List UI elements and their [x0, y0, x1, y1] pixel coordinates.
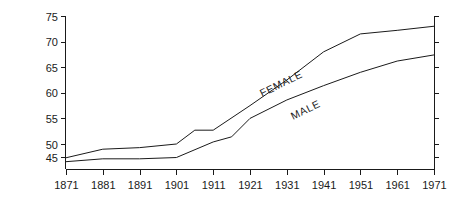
x-tick-label-1961: 1961 — [385, 179, 409, 191]
x-tick-label-1951: 1951 — [349, 179, 373, 191]
female-series-label: FEMALE — [258, 68, 305, 99]
y-axis-title: Expectation of life at birth (years) — [0, 0, 20, 22]
x-tick-label-1891: 1891 — [128, 179, 152, 191]
x-tick-label-1901: 1901 — [165, 179, 189, 191]
y-tick-label-70: 70 — [46, 36, 58, 48]
chart-canvas: 75706560555045 1871188118911901191119211… — [0, 0, 457, 207]
series-line-male — [66, 55, 434, 162]
y-tick-label-45: 45 — [46, 152, 58, 164]
x-tick-label-1871: 1871 — [54, 179, 78, 191]
male-series-label: MALE — [289, 97, 322, 122]
series-lines — [66, 26, 434, 161]
x-tick-label-1971: 1971 — [422, 179, 446, 191]
y-tick-label-60: 60 — [46, 87, 58, 99]
x-axis-ticks — [67, 170, 435, 176]
life-expectancy-chart: Expectation of life at birth (years) 757… — [0, 0, 457, 207]
x-tick-label-1911: 1911 — [202, 179, 226, 191]
x-tick-label-1931: 1931 — [275, 179, 299, 191]
y-axis-tick-labels: 75706560555045 — [46, 11, 58, 164]
x-axis-tick-labels: 1871188118911901191119211931194119511961… — [54, 179, 446, 191]
y-axis-ticks-left — [61, 17, 66, 158]
x-tick-label-1941: 1941 — [312, 179, 336, 191]
y-tick-label-55: 55 — [46, 113, 58, 125]
series-line-female — [66, 26, 434, 158]
x-tick-label-1881: 1881 — [91, 179, 115, 191]
y-axis-ticks-right — [435, 17, 440, 158]
series-annotations: FEMALEMALE — [258, 68, 322, 122]
y-tick-label-75: 75 — [46, 11, 58, 23]
x-tick-label-1921: 1921 — [238, 179, 262, 191]
y-tick-label-65: 65 — [46, 62, 58, 74]
y-tick-label-50: 50 — [46, 139, 58, 151]
